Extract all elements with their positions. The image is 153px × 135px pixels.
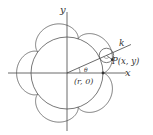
epicycloid-diagram: y x k θ P(x, y) (r, 0) — [0, 0, 153, 135]
theta-label: θ — [84, 66, 88, 73]
point-p-label: P(x, y) — [111, 56, 139, 66]
point-r0 — [102, 72, 105, 75]
x-axis-label: x — [125, 67, 131, 78]
theta-arc — [79, 68, 80, 73]
y-axis-label: y — [59, 4, 66, 15]
point-r0-label: (r, 0) — [74, 77, 93, 86]
line-k-label: k — [119, 38, 124, 48]
